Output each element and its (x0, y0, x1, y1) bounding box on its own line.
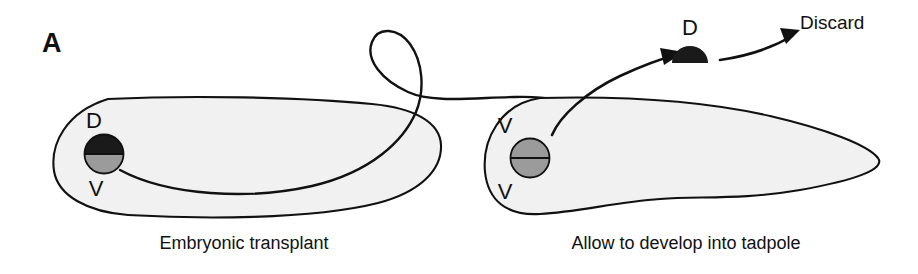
discarded-cap-label: D (682, 15, 698, 40)
figure-canvas: A D V (0, 0, 918, 274)
host-graft-circle (511, 139, 550, 178)
donor-dorsal-label: D (86, 108, 102, 133)
discarded-dorsal-cap (672, 46, 708, 63)
discard-arrow-path (720, 36, 792, 60)
host-lower-label: V (498, 179, 513, 204)
embryonic-transplant-figure: A D V (0, 0, 918, 274)
donor-ventral-label: V (89, 176, 104, 201)
donor-caption: Embryonic transplant (159, 233, 328, 253)
panel-letter-a: A (42, 28, 62, 58)
discard-arrow-group (720, 28, 800, 60)
host-caption: Allow to develop into tadpole (571, 233, 800, 253)
discard-label: Discard (800, 12, 864, 33)
discarded-cap-shape (672, 46, 708, 63)
host-upper-label: V (498, 113, 513, 138)
